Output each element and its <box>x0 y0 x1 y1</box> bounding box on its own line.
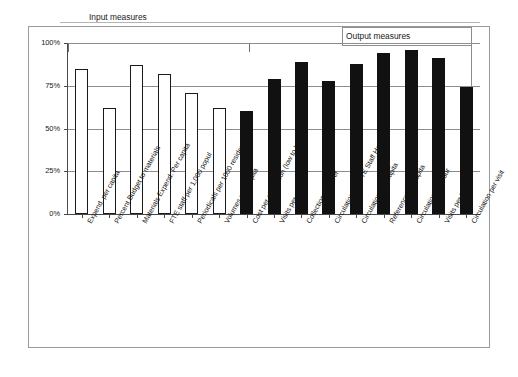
x-tick-mark <box>82 214 83 218</box>
y-tick-label: 25% <box>45 167 60 175</box>
bar <box>75 69 88 214</box>
x-tick-mark <box>192 214 193 218</box>
x-tick-mark <box>219 214 220 218</box>
x-tick-mark <box>274 214 275 218</box>
y-tick-label: 50% <box>45 125 60 133</box>
y-axis <box>67 43 68 215</box>
y-tick-mark <box>64 86 67 87</box>
x-tick-mark <box>137 214 138 218</box>
y-tick-mark <box>64 129 67 130</box>
gridline <box>68 43 480 44</box>
x-tick-mark <box>329 214 330 218</box>
input-measures-label: Input measures <box>89 12 147 22</box>
x-tick-mark <box>247 214 248 218</box>
chart-figure: Input measures Output measures 0%25%50%7… <box>0 0 518 377</box>
y-tick-mark <box>64 43 67 44</box>
plot-area: 0%25%50%75%100% Expend. per capitaPercen… <box>68 43 480 214</box>
y-tick-label: 75% <box>45 82 60 90</box>
x-tick-mark <box>439 214 440 218</box>
x-tick-mark <box>356 214 357 218</box>
y-tick-label: 0% <box>49 210 60 218</box>
y-tick-mark <box>64 214 67 215</box>
x-tick-mark <box>109 214 110 218</box>
x-tick-mark <box>384 214 385 218</box>
x-tick-mark <box>466 214 467 218</box>
y-tick-label: 100% <box>41 39 60 47</box>
x-tick-mark <box>411 214 412 218</box>
input-measures-underline <box>60 22 480 23</box>
x-tick-mark <box>301 214 302 218</box>
output-measures-label: Output measures <box>346 31 410 42</box>
y-tick-mark <box>64 171 67 172</box>
x-tick-mark <box>164 214 165 218</box>
